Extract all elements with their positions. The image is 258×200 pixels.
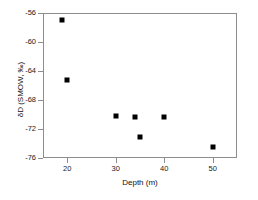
- y-axis-tick: [38, 71, 43, 72]
- data-point: [60, 17, 65, 22]
- x-axis-title: Depth (m): [43, 178, 237, 187]
- y-axis-tick-label: -72: [25, 125, 36, 133]
- y-axis-tick-label: -56: [25, 9, 36, 17]
- y-axis-tick: [38, 100, 43, 101]
- data-point: [162, 114, 167, 119]
- y-axis-tick: [38, 158, 43, 159]
- data-point: [138, 134, 143, 139]
- x-axis-tick-label: 40: [160, 165, 168, 173]
- x-axis-tick-label: 20: [63, 165, 71, 173]
- x-axis-tick: [116, 158, 117, 163]
- data-point: [133, 114, 138, 119]
- y-axis-title: δD (SMOW, ‰): [16, 30, 25, 150]
- data-point: [210, 145, 215, 150]
- scatter-chart-figure: δD (SMOW, ‰) Depth (m) -56-60-64-68-72-7…: [0, 0, 258, 200]
- y-axis-tick-label: -60: [25, 38, 36, 46]
- y-axis-tick-label: -76: [25, 154, 36, 162]
- x-axis-tick: [164, 158, 165, 163]
- y-axis-tick: [38, 42, 43, 43]
- x-axis-tick-label: 30: [112, 165, 120, 173]
- y-axis-tick-label: -68: [25, 96, 36, 104]
- y-axis-tick-label: -64: [25, 67, 36, 75]
- plot-area: [43, 13, 237, 158]
- x-axis-tick-label: 50: [209, 165, 217, 173]
- y-axis-tick: [38, 13, 43, 14]
- data-point: [65, 78, 70, 83]
- data-point: [113, 113, 118, 118]
- x-axis-tick: [213, 158, 214, 163]
- x-axis-tick: [67, 158, 68, 163]
- y-axis-tick: [38, 129, 43, 130]
